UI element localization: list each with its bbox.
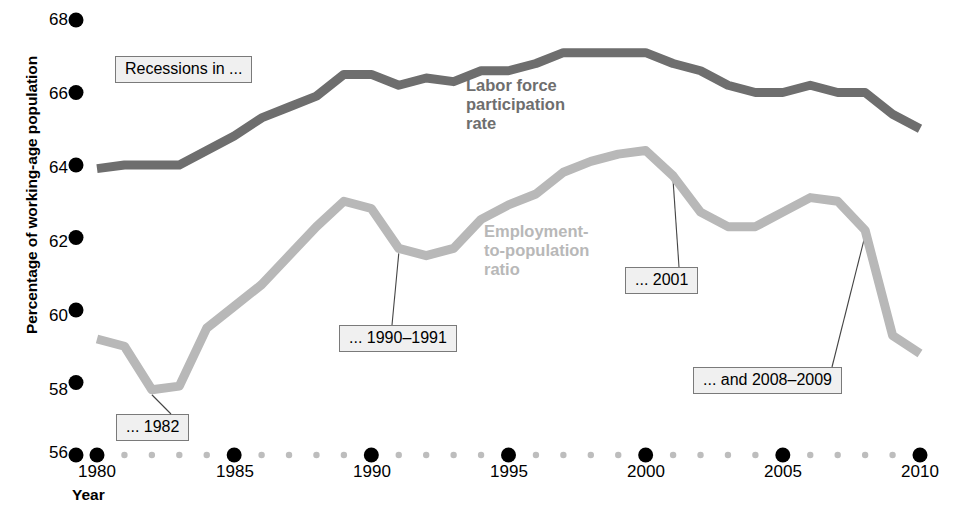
x-axis-dot-major-1985	[227, 448, 242, 463]
y-axis-dot-66	[69, 85, 84, 100]
x-axis-dot-minor-2004	[752, 452, 758, 458]
x-axis-dot-major-2000	[638, 448, 653, 463]
x-axis-dot-minor-2008	[862, 452, 868, 458]
x-axis-dot-minor-2002	[697, 452, 703, 458]
line-employment-to-population	[97, 151, 920, 390]
leader-2001	[673, 181, 679, 267]
x-axis-dot-minor-2007	[835, 452, 841, 458]
x-axis-dot-major-1995	[501, 448, 516, 463]
x-axis-dot-minor-1982	[149, 452, 155, 458]
x-axis-dot-minor-1986	[258, 452, 264, 458]
leader-1982	[152, 395, 171, 414]
y-axis-dot-58	[69, 375, 84, 390]
x-axis-dot-minor-2001	[670, 452, 676, 458]
x-axis-dot-minor-2009	[889, 452, 895, 458]
x-axis-dot-minor-1999	[615, 452, 621, 458]
x-axis-dot-minor-1984	[204, 452, 210, 458]
annotation-leader-lines	[152, 181, 865, 414]
x-axis-dot-minor-1989	[341, 452, 347, 458]
y-axis-dot-62	[69, 230, 84, 245]
x-axis-dot-major-2005	[775, 448, 790, 463]
leader-1990-1991	[392, 253, 399, 325]
x-axis-dot-minor-1992	[423, 452, 429, 458]
x-axis-dot-minor-2003	[725, 452, 731, 458]
x-axis-dot-minor-1994	[478, 452, 484, 458]
x-axis-dot-minor-1988	[313, 452, 319, 458]
x-axis-dot-major-1980	[90, 448, 105, 463]
x-axis-dot-major-1990	[364, 448, 379, 463]
y-axis-dot-68	[69, 13, 84, 28]
x-axis-dot-minor-1996	[533, 452, 539, 458]
x-axis-dot-major-2010	[913, 448, 928, 463]
x-axis-dot-minor-2006	[807, 452, 813, 458]
x-axis-dot-minor-1993	[450, 452, 456, 458]
y-axis-dot-64	[69, 158, 84, 173]
leader-2008-2009	[832, 235, 865, 367]
x-axis-dot-scale	[90, 448, 928, 463]
line-labor-force-participation	[97, 53, 920, 169]
x-axis-dot-minor-1987	[286, 452, 292, 458]
x-axis-dot-minor-1998	[588, 452, 594, 458]
x-axis-dot-minor-1983	[176, 452, 182, 458]
chart-figure: Percentage of working-age population Yea…	[0, 0, 954, 528]
x-axis-dot-minor-1991	[396, 452, 402, 458]
y-axis-dot-scale	[69, 13, 84, 463]
y-axis-dot-60	[69, 303, 84, 318]
x-axis-dot-minor-1981	[121, 452, 127, 458]
chart-canvas	[0, 0, 954, 528]
x-axis-dot-minor-1997	[560, 452, 566, 458]
y-axis-dot-56	[69, 448, 84, 463]
